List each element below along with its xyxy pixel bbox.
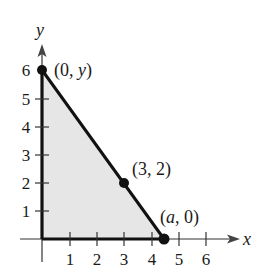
y-axis-label: y: [34, 20, 44, 40]
coordinate-plane: 1 2 3 4 5 6 1 2 3 4 5 6 x y (0, y) (3, 2…: [0, 0, 260, 278]
point-y-intercept: [37, 65, 47, 75]
y-tick-label: 4: [22, 118, 31, 137]
x-tick-label: 3: [120, 250, 129, 269]
x-axis-label: x: [242, 229, 251, 249]
y-tick-label: 6: [22, 61, 31, 80]
x-tick-label: 6: [202, 250, 211, 269]
y-tick-label: 5: [22, 90, 31, 109]
point-label-y-intercept: (0, y): [54, 60, 92, 81]
x-tick-label: 1: [66, 250, 75, 269]
y-tick-label: 1: [22, 202, 31, 221]
point-label-3-2: (3, 2): [132, 159, 171, 180]
x-tick-label: 5: [175, 250, 184, 269]
point-3-2: [119, 178, 129, 188]
point-x-intercept: [159, 234, 170, 245]
point-label-x-intercept: (a, 0): [160, 207, 199, 228]
x-tick-label: 4: [148, 250, 157, 269]
y-tick-label: 2: [22, 174, 31, 193]
y-tick-label: 3: [22, 146, 31, 165]
x-tick-label: 2: [93, 250, 102, 269]
